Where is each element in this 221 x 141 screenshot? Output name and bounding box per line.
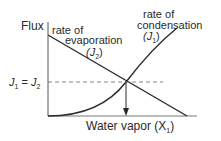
x-axis-label: Water vapor (X1) [86, 121, 174, 136]
evaporation-line [48, 35, 187, 116]
condensation-symbol: (J1) [143, 31, 160, 46]
y-axis-label: Flux [21, 21, 44, 32]
evaporation-label-line2: evaporation [65, 35, 123, 46]
evaporation-symbol: (J2) [86, 47, 103, 62]
arrow-down-icon [123, 108, 129, 116]
equilibrium-label: J1 = J2 [9, 77, 40, 92]
